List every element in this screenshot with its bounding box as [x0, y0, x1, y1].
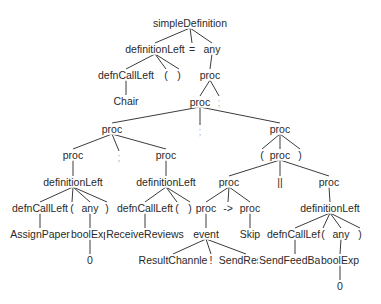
tree-edge: [228, 187, 229, 202]
tree-edge: [210, 80, 219, 96]
tree-node: ReceiveReviews: [105, 229, 185, 240]
tree-node: ResultChannle: [138, 255, 209, 266]
tree-edge: [206, 187, 229, 202]
tree-node: proc: [101, 124, 123, 135]
tree-edge: [155, 54, 166, 69]
tree-node: (: [163, 70, 169, 81]
tree-node: ;: [117, 152, 122, 163]
tree-node: ->: [222, 203, 234, 214]
tree-node: =: [188, 44, 196, 55]
tree-edge: [166, 187, 190, 202]
tree-node: ): [357, 229, 363, 240]
tree-node: proc: [318, 177, 340, 188]
parse-tree-diagram: simpleDefinitiondefinitionLeft=anydefnCa…: [0, 0, 381, 304]
tree-node: defnCallLeft: [97, 70, 155, 81]
tree-node: definitionLeft: [124, 44, 186, 55]
tree-edge: [329, 187, 330, 202]
tree-node: definitionLeft: [299, 203, 361, 214]
tree-node: (: [320, 229, 326, 240]
tree-edge: [112, 107, 200, 123]
tree-edge: [229, 160, 280, 176]
tree-node: proc: [62, 150, 84, 161]
tree-edge: [210, 54, 212, 69]
tree-edge: [72, 187, 73, 202]
tree-node: 0: [336, 281, 344, 292]
tree-edge: [330, 213, 360, 228]
tree-edge: [126, 54, 155, 69]
tree-edge: [190, 28, 192, 43]
tree-node: any: [332, 229, 351, 240]
tree-edge: [206, 239, 246, 254]
tree-edge: [166, 187, 177, 202]
tree-node: proc: [218, 177, 240, 188]
tree-node: proc: [269, 124, 291, 135]
tree-edge: [155, 54, 179, 69]
tree-edge: [173, 239, 206, 254]
tree-edge: [112, 134, 166, 149]
tree-edge: [295, 213, 330, 228]
tree-node: boolExp: [320, 255, 360, 266]
tree-node: !: [209, 255, 214, 266]
tree-node: defnCallLeft: [266, 229, 324, 240]
tree-node: Skip: [239, 229, 261, 240]
tree-edge: [73, 187, 107, 202]
tree-node: AssignPaper: [9, 229, 71, 240]
tree-edge: [200, 80, 210, 96]
tree-node: ): [187, 203, 193, 214]
tree-node: proc: [239, 203, 261, 214]
tree-node: ): [176, 70, 182, 81]
tree-edge: [340, 239, 341, 254]
tree-node: simpleDefinition: [152, 18, 228, 29]
tree-node: (: [174, 203, 180, 214]
tree-edge: [206, 239, 211, 254]
tree-node: event: [192, 229, 220, 240]
tree-edge: [190, 28, 212, 43]
tree-node: any: [81, 203, 100, 214]
tree-node: proc: [199, 70, 221, 81]
tree-node: ): [297, 150, 303, 161]
tree-node: 0: [86, 255, 94, 266]
tree-node: defnCallLeft: [116, 203, 174, 214]
tree-edge: [200, 107, 280, 123]
tree-edge: [229, 187, 250, 202]
tree-node: proc: [269, 150, 291, 161]
tree-edge: [73, 134, 112, 149]
tree-node: ;: [198, 126, 203, 137]
tree-node: ||: [276, 177, 283, 188]
tree-node: definitionLeft: [135, 177, 197, 188]
tree-node: (: [259, 150, 265, 161]
tree-node: ): [104, 203, 110, 214]
tree-edge: [155, 28, 190, 43]
tree-edge: [112, 134, 119, 151]
tree-edge: [145, 187, 166, 202]
tree-node: any: [203, 44, 222, 55]
tree-node: (: [69, 203, 75, 214]
tree-node: Chair: [112, 96, 139, 107]
tree-node: ;: [217, 97, 222, 108]
tree-edge: [73, 187, 90, 202]
tree-edge: [280, 134, 300, 149]
tree-node: boolExp: [70, 229, 110, 240]
tree-node: proc: [195, 203, 217, 214]
tree-node: defnCallLeft: [11, 203, 69, 214]
tree-node: definitionLeft: [42, 177, 104, 188]
tree-edge: [40, 187, 73, 202]
tree-node: proc: [189, 97, 211, 108]
tree-edge: [280, 160, 329, 176]
tree-edge: [262, 134, 280, 149]
tree-node: proc: [155, 150, 177, 161]
